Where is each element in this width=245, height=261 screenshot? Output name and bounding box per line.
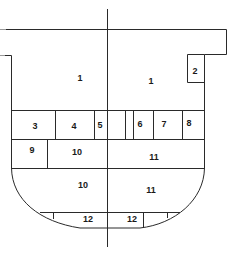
compartment-label: 10	[78, 180, 88, 190]
compartment-label: 12	[127, 214, 137, 224]
compartment-label: 4	[71, 121, 76, 131]
compartment-label: 9	[29, 145, 34, 155]
compartment-label: 1	[77, 73, 82, 83]
compartment-label: 8	[186, 118, 191, 128]
compartment-label: 6	[137, 119, 142, 129]
compartment-label: 7	[161, 119, 166, 129]
compartment-label: 11	[149, 152, 159, 162]
compartment-label: 12	[83, 214, 93, 224]
compartment-label: 11	[146, 185, 156, 195]
compartment-label: 2	[192, 66, 197, 76]
compartment-label: 3	[32, 121, 37, 131]
compartment-label: 5	[97, 120, 102, 130]
compartment-label: 1	[148, 76, 153, 86]
compartment-label: 10	[72, 147, 82, 157]
